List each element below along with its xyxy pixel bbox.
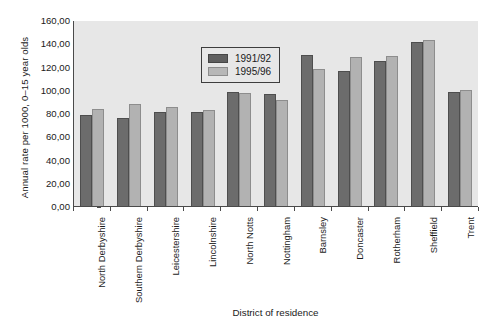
- bar: [227, 92, 239, 206]
- bar: [80, 115, 92, 206]
- bar-group: [368, 21, 405, 206]
- bar-group: [74, 21, 111, 206]
- plot-area: 1991/92 1995/96: [73, 21, 478, 207]
- bar: [460, 90, 472, 206]
- bar: [386, 56, 398, 206]
- bar: [239, 93, 251, 206]
- y-tick-label: 40,00: [26, 156, 70, 166]
- x-tick-mark: [110, 207, 111, 211]
- x-tick-mark: [220, 207, 221, 211]
- x-category-label: Trent: [465, 217, 477, 307]
- bar: [117, 118, 129, 206]
- bar: [203, 110, 215, 206]
- x-category-label: Leicestershire: [170, 217, 182, 307]
- bar-group: [331, 21, 368, 206]
- x-category-label: North Derbyshire: [96, 217, 108, 307]
- legend-label-1995-96: 1995/96: [235, 66, 271, 78]
- x-tick-mark: [441, 207, 442, 211]
- x-tick-mark: [368, 207, 369, 211]
- bar: [448, 92, 460, 207]
- x-tick-mark: [73, 207, 74, 211]
- x-category-label: Rotherham: [391, 217, 403, 307]
- x-category-label: Sheffield: [428, 217, 440, 307]
- x-tick-mark: [147, 207, 148, 211]
- x-tick-mark: [183, 207, 184, 211]
- bar: [166, 107, 178, 206]
- bar: [411, 42, 423, 206]
- x-tick-mark: [257, 207, 258, 211]
- legend-swatch-1995-96: [208, 67, 228, 76]
- y-tick-label: 140,00: [26, 39, 70, 49]
- legend-label-1991-92: 1991/92: [235, 53, 271, 65]
- legend-item: 1991/92: [208, 52, 271, 65]
- y-tick-label: 80,00: [26, 109, 70, 119]
- x-category-label: Barnsley: [317, 217, 329, 307]
- x-axis-tick-marks: [73, 207, 478, 212]
- x-axis-title: District of residence: [73, 307, 478, 318]
- bar: [276, 100, 288, 206]
- bar: [374, 61, 386, 206]
- y-tick-label: 100,00: [26, 86, 70, 96]
- y-tick-label: 120,00: [26, 63, 70, 73]
- bar: [154, 112, 166, 206]
- bar-chart-figure: Annual rate per 1000, 0–15 year olds 160…: [0, 0, 500, 335]
- x-category-label: Lincolnshire: [207, 217, 219, 307]
- bar-group: [441, 21, 478, 206]
- x-category-label: North Notts: [244, 217, 256, 307]
- bar-group: [294, 21, 331, 206]
- bar: [313, 69, 325, 206]
- y-tick-label: 60,00: [26, 132, 70, 142]
- x-category-label: Nottingham: [281, 217, 293, 307]
- y-tick-label: 0,00: [26, 202, 70, 212]
- bar-group: [147, 21, 184, 206]
- y-tick-label: 20,00: [26, 179, 70, 189]
- bar-group: [405, 21, 442, 206]
- x-tick-mark: [404, 207, 405, 211]
- x-tick-mark: [478, 207, 479, 211]
- x-tick-mark: [294, 207, 295, 211]
- x-category-label: Southern Derbyshire: [133, 217, 145, 307]
- chart-legend: 1991/92 1995/96: [201, 47, 280, 83]
- bar: [92, 109, 104, 206]
- bar: [338, 71, 350, 206]
- y-tick-label: 160,00: [26, 16, 70, 26]
- bar: [350, 57, 362, 206]
- bar: [423, 40, 435, 206]
- bar: [264, 94, 276, 206]
- bar-group: [111, 21, 148, 206]
- bar: [191, 112, 203, 206]
- legend-item: 1995/96: [208, 65, 271, 78]
- x-axis-category-labels: North DerbyshireSouthern DerbyshireLeice…: [73, 213, 478, 298]
- x-tick-mark: [331, 207, 332, 211]
- bar: [129, 104, 141, 206]
- legend-swatch-1991-92: [208, 54, 228, 63]
- x-category-label: Doncaster: [354, 217, 366, 307]
- y-axis-tick-labels: 160,00140,00120,00100,0080,0060,0040,002…: [26, 21, 70, 207]
- bar: [301, 55, 313, 206]
